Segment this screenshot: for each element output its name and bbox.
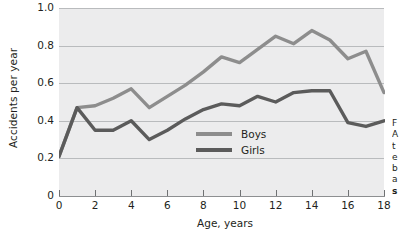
side-caption-fragment: FAtebas: [392, 118, 409, 197]
x-tick-label-8: 8: [191, 199, 215, 211]
x-tick-label-12: 12: [264, 199, 288, 211]
y-tick-label-0.8: 0.8: [22, 39, 54, 51]
legend-item-boys: Boys: [196, 126, 266, 142]
x-tick-label-2: 2: [83, 199, 107, 211]
data-lines: [59, 8, 385, 197]
side-caption-line-4: e: [392, 152, 409, 163]
x-tick-12: [276, 190, 277, 196]
chart-legend: Boys Girls: [196, 126, 266, 158]
x-axis-line: [59, 196, 385, 197]
x-tick-14: [312, 190, 313, 196]
x-tick-label-18: 18: [372, 199, 396, 211]
legend-label-girls: Girls: [241, 144, 265, 156]
x-tick-label-6: 6: [155, 199, 179, 211]
y-axis-ticks: 00.20.40.60.81.0: [18, 0, 54, 240]
x-tick-4: [131, 190, 132, 196]
x-tick-8: [203, 190, 204, 196]
y-tick-label-0.4: 0.4: [22, 114, 54, 126]
side-caption-line-2: A: [392, 129, 409, 140]
legend-swatch-girls: [196, 148, 232, 152]
y-axis-title: Accidents per year: [7, 23, 19, 173]
legend-item-girls: Girls: [196, 142, 266, 158]
x-tick-10: [240, 190, 241, 196]
legend-label-boys: Boys: [241, 128, 266, 140]
y-tick-label-0.2: 0.2: [22, 151, 54, 163]
y-tick-label-1.0: 1.0: [22, 1, 54, 13]
legend-swatch-boys: [196, 132, 232, 136]
side-caption-line-3: t: [392, 141, 409, 152]
x-tick-label-4: 4: [119, 199, 143, 211]
chart-figure: 024681012141618 00.20.40.60.81.0 Acciden…: [0, 0, 409, 240]
x-tick-label-16: 16: [336, 199, 360, 211]
side-caption-line-6: a: [392, 174, 409, 185]
x-axis-title: Age, years: [180, 217, 270, 229]
x-tick-label-14: 14: [300, 199, 324, 211]
y-tick-label-0.6: 0.6: [22, 76, 54, 88]
x-tick-6: [167, 190, 168, 196]
x-tick-2: [95, 190, 96, 196]
side-caption-bold-line: s: [392, 186, 409, 197]
side-caption-line-1: F: [392, 118, 409, 129]
side-caption-line-5: b: [392, 163, 409, 174]
x-tick-16: [348, 190, 349, 196]
y-tick-label-0: 0: [22, 189, 54, 201]
x-tick-0: [59, 190, 60, 196]
x-tick-label-10: 10: [228, 199, 252, 211]
x-tick-18: [384, 190, 385, 196]
